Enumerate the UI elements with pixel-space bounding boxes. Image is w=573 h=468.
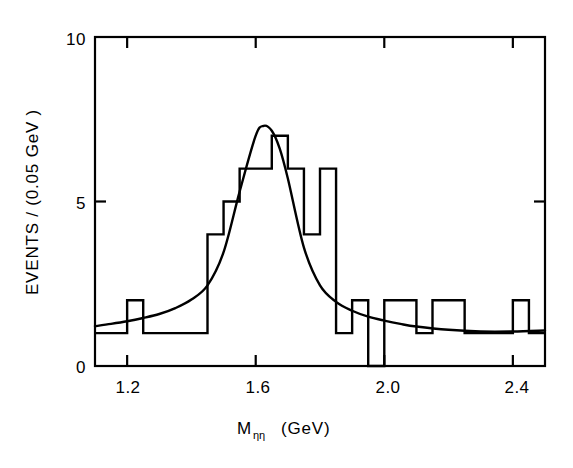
ytick-label-5: 5 — [76, 194, 86, 213]
xtick-label-2: 1.6 — [245, 378, 270, 397]
xtick-label-4: 2.4 — [504, 378, 529, 397]
x-axis-title-subscript: ηη — [253, 429, 265, 441]
figure-container: 10 5 0 1.2 1.6 2.0 2.4 EVENTS / (0.05 Ge… — [0, 0, 573, 468]
x-axis-title: M ηη (GeV) — [237, 419, 330, 441]
xtick-label-1: 1.2 — [115, 378, 140, 397]
x-axis-title-main: M — [237, 419, 252, 438]
ytick-label-0: 0 — [76, 358, 86, 377]
y-axis-title: EVENTS / (0.05 GeV ) — [23, 109, 42, 295]
xtick-label-3: 2.0 — [375, 378, 400, 397]
mass-spectrum-plot: 10 5 0 1.2 1.6 2.0 2.4 EVENTS / (0.05 Ge… — [0, 0, 573, 468]
x-axis-title-unit: (GeV) — [281, 419, 330, 438]
ytick-label-10: 10 — [66, 30, 86, 49]
